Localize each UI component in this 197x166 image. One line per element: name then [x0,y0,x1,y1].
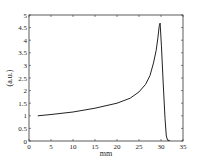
x-axis-label: mm [100,149,113,158]
axis-ticks: 0510152025303500.511.522.533.544.55 [18,12,187,152]
y-tick-label: 2 [24,87,28,95]
y-tick-label: 0.5 [18,125,27,133]
x-tick-label: 20 [114,143,122,151]
x-tick-label: 0 [27,143,31,151]
y-tick-label: 0 [24,138,28,146]
plot-frame [29,15,183,141]
x-tick-label: 5 [49,143,53,151]
x-tick-label: 10 [70,143,78,151]
y-tick-label: 3.5 [18,49,27,57]
y-tick-label: 4.5 [18,24,27,32]
y-tick-label: 4 [24,37,28,45]
line-chart: 0510152025303500.511.522.533.544.55 mm (… [0,0,197,166]
y-axis-label: (a.u.) [5,69,14,86]
y-tick-label: 5 [24,12,28,20]
x-tick-label: 15 [92,143,100,151]
y-tick-label: 3 [24,62,28,70]
y-tick-label: 2.5 [18,75,27,83]
x-tick-label: 30 [158,143,166,151]
plot-border [29,15,183,141]
data-line [38,23,170,140]
x-tick-label: 25 [136,143,144,151]
y-tick-label: 1 [24,112,28,120]
y-tick-label: 1.5 [18,100,27,108]
x-tick-label: 35 [180,143,188,151]
